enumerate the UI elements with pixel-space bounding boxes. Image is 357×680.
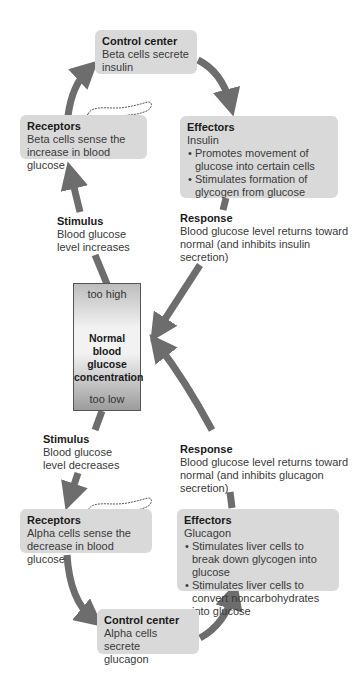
- effectors-box-bottom: Effectors Glucagon • Stimulates liver ce…: [177, 509, 339, 591]
- arrow-control-to-effectors-top: [198, 60, 230, 103]
- control-center-box-bottom: Control center Alpha cells secrete gluca…: [97, 609, 199, 654]
- too-low-label: too low: [74, 393, 140, 406]
- effectors-box-top: Effectors Insulin • Promotes movement of…: [180, 116, 338, 198]
- normal-glucose-gauge: too high Normal blood glucose concentrat…: [73, 283, 141, 411]
- arrow-response-to-normal-top: [158, 265, 200, 330]
- too-high-label: too high: [74, 288, 140, 301]
- control-center-box-top: Control center Beta cells secrete insuli…: [95, 30, 197, 74]
- response-label-top: Response Blood glucose level returns tow…: [180, 212, 348, 264]
- receptors-box-top: Receptors Beta cells sense the increase …: [20, 115, 147, 159]
- arrow-stimulus-to-receptors-top: [71, 175, 80, 212]
- receptors-box-bottom: Receptors Alpha cells sense the decrease…: [20, 509, 152, 553]
- arrow-stimulus-to-receptors-bottom: [70, 473, 78, 497]
- response-label-bottom: Response Blood glucose level returns tow…: [180, 443, 348, 495]
- arrow-response-to-normal-bottom: [158, 345, 212, 430]
- normal-concentration-label: Normal blood glucose concentration: [74, 332, 140, 384]
- stimulus-label-top: Stimulus Blood glucose level increases: [57, 215, 130, 254]
- stimulus-label-bottom: Stimulus Blood glucose level decreases: [43, 433, 119, 472]
- box-title: Control center: [102, 35, 190, 48]
